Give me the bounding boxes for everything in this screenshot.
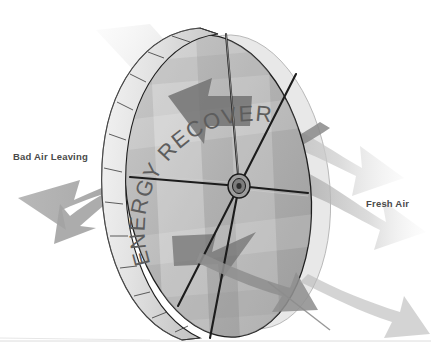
- diagram-canvas: ENERGY RECOVERY: [0, 0, 431, 357]
- wheel-hub: [228, 174, 250, 198]
- label-fresh-air: Fresh Air: [366, 198, 409, 209]
- energy-recovery-wheel-diagram: ENERGY RECOVERY Bad Air Leaving Fresh Ai…: [0, 0, 431, 357]
- ground-line-left: [0, 338, 150, 340]
- label-bad-air-leaving: Bad Air Leaving: [13, 151, 88, 162]
